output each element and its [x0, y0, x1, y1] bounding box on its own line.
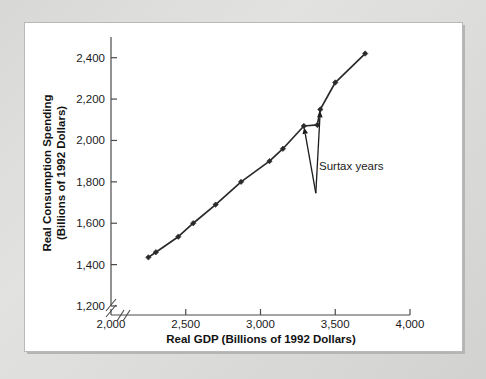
- x-tick-label: 2,000: [97, 318, 126, 330]
- y-tick-label: 2,200: [76, 93, 105, 105]
- annotation-arrow-shaft: [316, 117, 320, 193]
- y-axis: 1,2001,4001,6001,8002,0002,2002,400: [76, 37, 117, 312]
- x-tick-label: 3,500: [321, 318, 350, 330]
- x-tick-label: 2,500: [171, 318, 200, 330]
- y-tick-label: 2,000: [76, 134, 105, 146]
- annotation-surtax-years: Surtax years: [303, 111, 384, 193]
- y-tick-label: 1,600: [76, 217, 105, 229]
- x-axis-tick-labels: 2,0002,5003,0003,5004,000: [97, 318, 425, 330]
- y-tick-label: 1,200: [76, 300, 105, 312]
- annotation-arrow-shaft: [305, 134, 316, 193]
- data-series-consumption: [146, 51, 368, 260]
- data-point-markers: [146, 51, 368, 260]
- y-axis-title-line1: Real Consumption Spending: [41, 94, 53, 251]
- x-tick-label: 4,000: [396, 318, 425, 330]
- x-axis-title: Real GDP (Billions of 1992 Dollars): [166, 333, 356, 345]
- y-axis-title-line2: (Billions of 1992 Dollars): [55, 106, 67, 240]
- x-axis: 2,0002,5003,0003,5004,000: [97, 309, 425, 330]
- annotation-label: Surtax years: [319, 160, 384, 172]
- x-axis-ticks: [111, 309, 410, 315]
- figure-panel: 1,2001,4001,6001,8002,0002,2002,400 2,00…: [24, 22, 463, 352]
- y-tick-label: 1,800: [76, 176, 105, 188]
- y-axis-tick-labels: 1,2001,4001,6001,8002,0002,2002,400: [76, 52, 105, 312]
- consumption-function-chart: 1,2001,4001,6001,8002,0002,2002,400 2,00…: [25, 23, 462, 351]
- x-tick-label: 3,000: [246, 318, 275, 330]
- annotation-arrow-head: [317, 111, 323, 118]
- y-axis-ticks: [111, 58, 117, 306]
- figure-root: 1,2001,4001,6001,8002,0002,2002,400 2,00…: [0, 0, 486, 379]
- y-tick-label: 2,400: [76, 52, 105, 64]
- y-axis-title: Real Consumption Spending (Billions of 1…: [41, 94, 67, 251]
- y-tick-label: 1,400: [76, 259, 105, 271]
- annotation-arrows: [303, 111, 323, 193]
